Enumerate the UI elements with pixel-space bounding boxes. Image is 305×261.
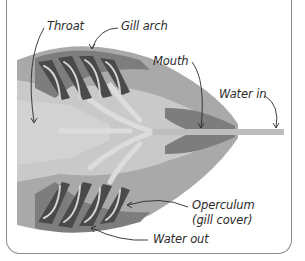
label-gill-arch: Gill arch [121,20,168,33]
fish-gill-illustration [0,0,305,261]
water-in-channel [150,129,284,135]
label-water-in: Water in [219,88,266,101]
label-throat: Throat [47,20,84,33]
label-operculum-subtitle: (gill cover) [192,214,252,227]
label-water-out: Water out [153,233,209,246]
label-operculum: Operculum [192,199,255,212]
label-mouth: Mouth [153,55,189,68]
